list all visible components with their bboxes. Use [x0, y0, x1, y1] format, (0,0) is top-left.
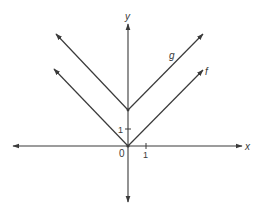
y-axis-label: y: [124, 11, 131, 22]
x-tick-label-1: 1: [143, 150, 148, 160]
x-axis-label: x: [244, 141, 251, 152]
series-label-g: g: [169, 50, 175, 61]
vertex-f: [126, 144, 129, 147]
y-tick-label-1: 1: [118, 125, 123, 135]
series-g: [56, 34, 203, 111]
vertex-g: [127, 109, 130, 112]
origin-label: 0: [119, 148, 125, 159]
graph-canvas: y x 0 1 1 g f: [0, 0, 260, 212]
series-label-f: f: [205, 66, 209, 77]
